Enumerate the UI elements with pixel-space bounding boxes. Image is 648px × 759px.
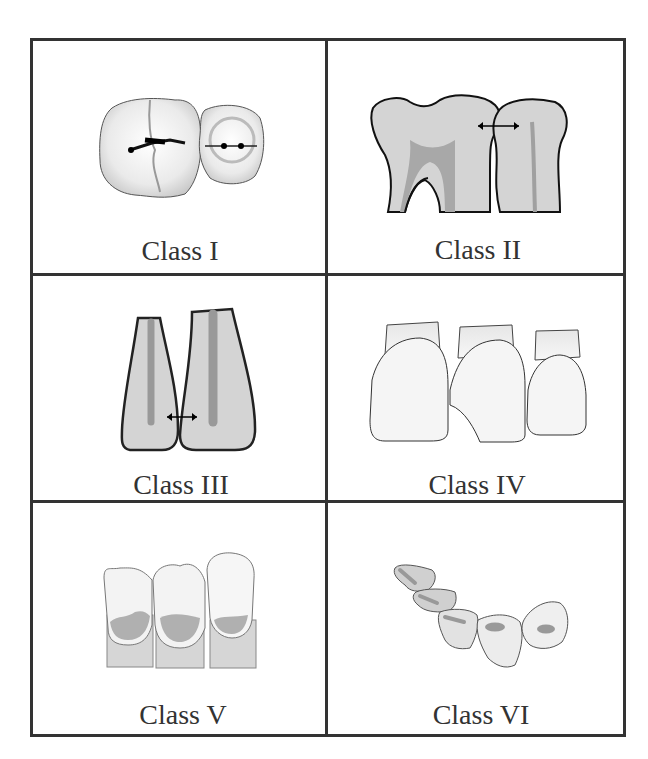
class-1-label: Class I <box>142 237 219 265</box>
class-4-illustration <box>370 322 586 442</box>
class-5-illustration <box>104 553 256 668</box>
class-5-label: Class V <box>139 701 226 729</box>
illustrations <box>0 0 648 759</box>
class-3-label: Class III <box>133 471 229 499</box>
class-3-illustration <box>122 309 255 450</box>
class-2-label: Class II <box>435 236 521 264</box>
class-6-label: Class VI <box>433 701 530 729</box>
class-4-label: Class IV <box>428 471 525 499</box>
class-2-illustration <box>371 95 566 212</box>
class-6-illustration <box>394 565 568 667</box>
class-1-illustration <box>100 98 264 197</box>
